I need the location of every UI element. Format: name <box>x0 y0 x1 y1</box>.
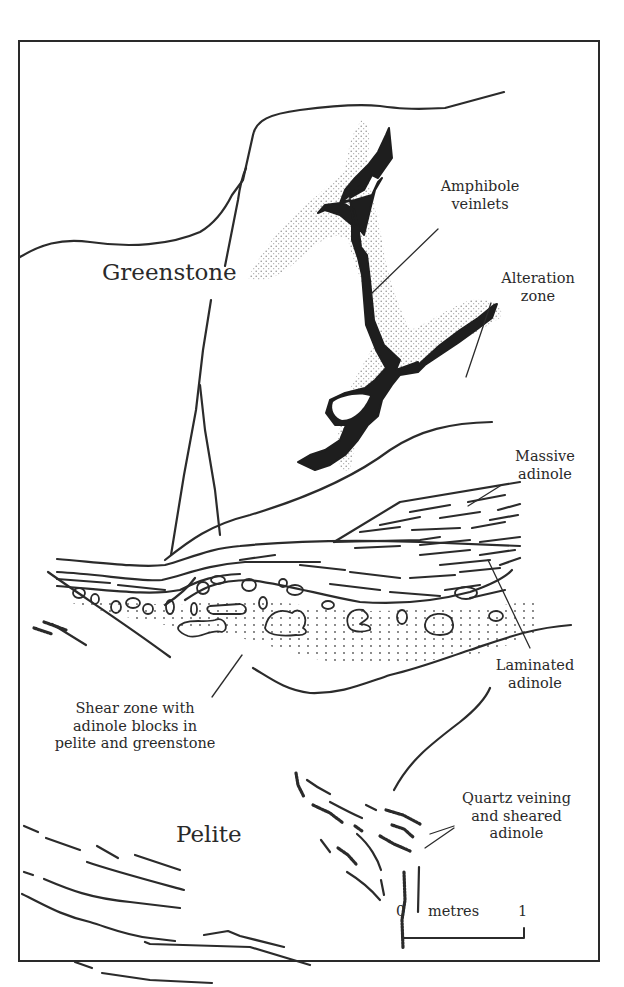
scale-bar-end: 1 <box>518 903 527 921</box>
label-quartz-veining: Quartz veining and sheared adinole <box>444 790 589 843</box>
scale-bar-unit: metres <box>428 903 479 921</box>
laminated-adinole-lamination <box>355 495 520 565</box>
pelite-foliation <box>22 826 310 983</box>
label-greenstone: Greenstone <box>102 258 237 286</box>
label-alteration-zone: Alteration zone <box>488 270 588 305</box>
scale-bar-line <box>402 928 524 938</box>
quartz-vein-left <box>34 628 52 634</box>
label-shear-zone: Shear zone with adinole blocks in pelite… <box>20 700 250 753</box>
geological-sketch-figure: Greenstone Pelite Amphibole veinlets Alt… <box>0 0 624 987</box>
scale-bar-start: 0 <box>396 903 405 921</box>
shear-zone-stipple <box>60 600 540 665</box>
label-amphibole-veinlets: Amphibole veinlets <box>425 178 535 213</box>
fracture-right <box>200 385 220 535</box>
label-massive-adinole: Massive adinole <box>500 448 590 483</box>
fracture-upper <box>225 168 246 266</box>
greenstone-boundary-top <box>20 92 504 257</box>
label-laminated-adinole: Laminated adinole <box>480 657 590 692</box>
label-pelite: Pelite <box>176 820 242 848</box>
shear-zone-leader <box>212 655 242 697</box>
